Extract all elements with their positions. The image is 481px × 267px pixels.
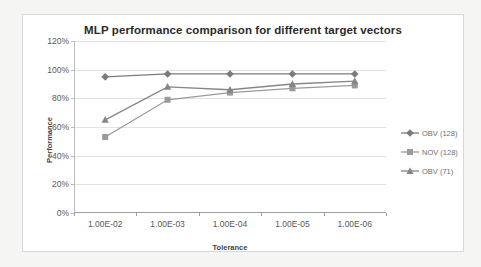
y-tick-label: 20% (52, 179, 69, 189)
data-point-marker (406, 129, 414, 137)
data-point-marker (101, 73, 109, 81)
legend-marker-triangle-icon (401, 166, 419, 176)
y-tick-label: 0% (57, 208, 69, 218)
legend-label: OBV (128) (422, 129, 457, 138)
data-point-marker (226, 70, 234, 78)
y-tick-label: 100% (47, 65, 69, 75)
x-tick-label: 1.00E-02 (88, 219, 123, 229)
x-tick-mark (74, 213, 75, 216)
x-tick-mark (386, 213, 387, 216)
chart-canvas: MLP performance comparison for different… (22, 14, 464, 252)
y-tick-label: 80% (52, 93, 69, 103)
data-point-marker (164, 70, 172, 78)
data-point-marker (289, 70, 297, 78)
legend-label: OBV (71) (422, 167, 453, 176)
legend-item[interactable]: OBV (128) (401, 128, 458, 138)
y-tick-label: 40% (52, 151, 69, 161)
x-tick-mark (261, 213, 262, 216)
x-tick-label: 1.00E-05 (275, 219, 310, 229)
data-point-marker (102, 116, 109, 123)
data-point-marker (165, 97, 171, 103)
data-point-marker (102, 134, 108, 140)
x-tick-mark (199, 213, 200, 216)
chart-title: MLP performance comparison for different… (23, 24, 463, 36)
series-plot (74, 41, 386, 213)
legend-label: NOV (128) (422, 148, 458, 157)
legend-marker-square-icon (401, 147, 419, 157)
chart-legend: OBV (128)NOV (128)OBV (71) (401, 128, 458, 176)
legend-item[interactable]: NOV (128) (401, 147, 458, 157)
series-obv-128- (101, 70, 358, 80)
y-tick-label: 60% (52, 122, 69, 132)
data-point-marker (407, 149, 413, 155)
chart-screenshot: MLP performance comparison for different… (0, 0, 481, 267)
x-tick-mark (324, 213, 325, 216)
y-tick-label: 120% (47, 36, 69, 46)
legend-item[interactable]: OBV (71) (401, 166, 458, 176)
x-axis-title: Tolerance (74, 243, 386, 252)
x-tick-label: 1.00E-06 (338, 219, 373, 229)
legend-marker-diamond-icon (401, 128, 419, 138)
x-tick-label: 1.00E-03 (150, 219, 185, 229)
data-point-marker (351, 70, 359, 78)
plot-area: 0%20%40%60%80%100%120% 1.00E-021.00E-031… (74, 41, 386, 213)
x-tick-mark (136, 213, 137, 216)
x-tick-label: 1.00E-04 (213, 219, 248, 229)
